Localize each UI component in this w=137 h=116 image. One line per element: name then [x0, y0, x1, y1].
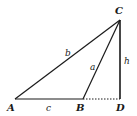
side-a-line: [83, 20, 120, 99]
side-label-h: h: [124, 56, 130, 66]
point-label-d: D: [115, 102, 125, 113]
side-label-a: a: [90, 62, 95, 72]
side-b-line: [15, 20, 120, 99]
side-label-c: c: [46, 103, 51, 113]
point-label-a: A: [6, 102, 15, 113]
point-label-b: B: [75, 102, 84, 113]
triangle-diagram: C A B D c b a h: [0, 0, 137, 116]
side-label-b: b: [65, 48, 71, 58]
point-label-c: C: [115, 5, 123, 16]
